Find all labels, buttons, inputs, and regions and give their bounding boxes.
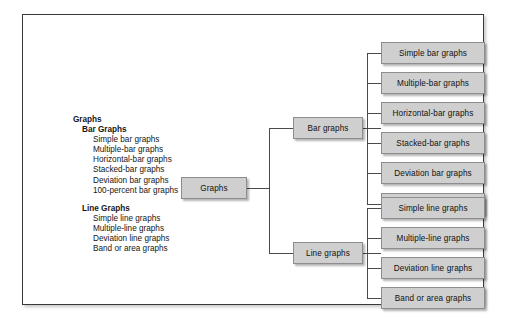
connector-bar-stub	[363, 128, 381, 129]
outline-spacer	[73, 196, 178, 204]
node-line-graphs[interactable]: Line graphs	[293, 242, 363, 264]
connector-line-stub	[363, 253, 381, 254]
connector-bar-spine	[367, 53, 368, 204]
outline-item: Deviation line graphs	[73, 234, 178, 244]
connector-line-leaf	[367, 268, 381, 269]
outline-item: Multiple-bar graphs	[73, 145, 178, 155]
connector-root-spine	[269, 128, 270, 254]
connector-bar-leaf	[367, 83, 381, 84]
node-leaf-stacked-bar-graphs[interactable]: Stacked-bar graphs	[381, 132, 485, 154]
outline-heading-line-graphs: Line Graphs	[73, 204, 178, 214]
outline-item: 100-percent bar graphs	[73, 186, 178, 196]
connector-line-leaf	[367, 298, 381, 299]
connector-bar-leaf	[367, 113, 381, 114]
figure-frame: Graphs Bar Graphs Simple bar graphs Mult…	[22, 14, 484, 305]
connector-bar-leaf	[367, 204, 381, 205]
outline-root-label: Graphs	[73, 115, 178, 125]
connector-root-stub	[247, 188, 269, 189]
outline-item: Stacked-bar graphs	[73, 165, 178, 175]
outline-heading-bar-graphs: Bar Graphs	[73, 125, 178, 135]
connector-bar-leaf	[367, 53, 381, 54]
outline-item: Simple bar graphs	[73, 135, 178, 145]
node-bar-graphs[interactable]: Bar graphs	[293, 117, 363, 139]
node-graphs-root[interactable]: Graphs	[181, 177, 247, 199]
outline-item: Horizontal-bar graphs	[73, 155, 178, 165]
outline-item: Multiple-line graphs	[73, 224, 178, 234]
connector-line-leaf	[367, 238, 381, 239]
figure-canvas: Graphs Bar Graphs Simple bar graphs Mult…	[0, 0, 505, 318]
connector-bar-leaf	[367, 173, 381, 174]
connector-to-line-graphs	[269, 253, 293, 254]
connector-line-spine	[367, 208, 368, 299]
outline-item: Simple line graphs	[73, 214, 178, 224]
node-leaf-multiple-line-graphs[interactable]: Multiple-line graphs	[381, 227, 485, 249]
node-leaf-simple-line-graphs[interactable]: Simple line graphs	[381, 197, 485, 219]
node-leaf-simple-bar-graphs[interactable]: Simple bar graphs	[381, 42, 485, 64]
node-leaf-horizontal-bar-graphs[interactable]: Horizontal-bar graphs	[381, 102, 485, 124]
node-leaf-multiple-bar-graphs[interactable]: Multiple-bar graphs	[381, 72, 485, 94]
outline-item: Deviation bar graphs	[73, 176, 178, 186]
node-leaf-deviation-bar-graphs[interactable]: Deviation bar graphs	[381, 162, 485, 184]
outline-item: Band or area graphs	[73, 244, 178, 254]
connector-bar-leaf	[367, 143, 381, 144]
node-leaf-deviation-line-graphs[interactable]: Deviation line graphs	[381, 257, 485, 279]
node-leaf-band-or-area-graphs[interactable]: Band or area graphs	[381, 287, 485, 309]
connector-to-bar-graphs	[269, 128, 293, 129]
outline-list: Graphs Bar Graphs Simple bar graphs Mult…	[73, 115, 178, 254]
connector-line-leaf	[367, 208, 381, 209]
